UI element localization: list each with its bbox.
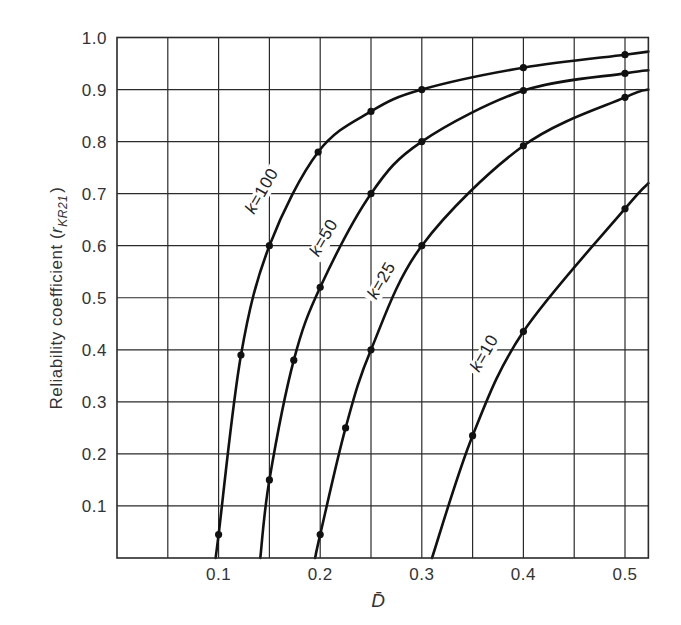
data-point (266, 476, 273, 483)
data-point (418, 86, 425, 93)
y-tick-label: 0.6 (82, 237, 107, 256)
x-axis-ticks: 0.10.20.30.40.5 (206, 565, 638, 584)
data-point (520, 64, 527, 71)
curve-k100 (216, 52, 649, 558)
reliability-chart: k=100k=50k=25k=10 0.10.20.30.40.50.60.70… (0, 0, 681, 625)
data-point (469, 432, 476, 439)
y-tick-label: 0.8 (82, 133, 107, 152)
curve-label-k100: k=100 (239, 162, 283, 220)
data-point (367, 108, 374, 115)
x-tick-label: 0.2 (308, 565, 333, 584)
data-point (621, 51, 628, 58)
y-axis-title-main: Reliability coefficient ( (47, 233, 66, 410)
data-point (317, 531, 324, 538)
series-k25 (315, 90, 648, 558)
curves (215, 51, 648, 558)
data-point (520, 328, 527, 335)
series-k10 (432, 183, 648, 558)
y-tick-label: 0.1 (82, 497, 107, 516)
data-point (520, 142, 527, 149)
data-point (315, 148, 322, 155)
curve-label-k10: k=10 (464, 329, 503, 378)
data-point (418, 242, 425, 249)
y-tick-label: 0.7 (82, 185, 107, 204)
data-point (290, 357, 297, 364)
x-tick-label: 0.4 (511, 565, 536, 584)
curve-label-k50: k=50 (304, 213, 343, 262)
y-axis-title-subscript: KR21 (56, 195, 70, 227)
x-axis-title: D̄ (371, 590, 385, 611)
data-point (367, 190, 374, 197)
y-axis-title-close: ) (47, 187, 66, 193)
y-tick-label: 0.5 (82, 289, 107, 308)
data-point (621, 94, 628, 101)
y-tick-label: 0.2 (82, 445, 107, 464)
data-point (621, 70, 628, 77)
gridlines (117, 38, 648, 559)
data-point (418, 138, 425, 145)
y-tick-label: 0.3 (82, 393, 107, 412)
curve-label-text: k=100 (241, 165, 282, 217)
y-axis-ticks: 0.10.20.30.40.50.60.70.80.91.0 (82, 29, 107, 516)
data-point (342, 424, 349, 431)
curve-k25 (315, 90, 648, 558)
y-tick-label: 0.4 (82, 341, 107, 360)
series-k100 (215, 51, 648, 558)
y-axis-title: Reliability coefficient (rKR21) (47, 187, 70, 410)
data-point (367, 346, 374, 353)
x-tick-label: 0.3 (409, 565, 434, 584)
y-tick-label: 1.0 (82, 29, 107, 48)
data-point (520, 87, 527, 94)
x-tick-label: 0.1 (206, 565, 231, 584)
data-point (317, 284, 324, 291)
y-tick-label: 0.9 (82, 81, 107, 100)
x-tick-label: 0.5 (612, 565, 637, 584)
data-point (215, 531, 222, 538)
data-point (237, 351, 244, 358)
data-point (621, 205, 628, 212)
curve-k10 (432, 183, 648, 558)
curve-label-text: k=10 (466, 331, 502, 375)
data-point (266, 242, 273, 249)
